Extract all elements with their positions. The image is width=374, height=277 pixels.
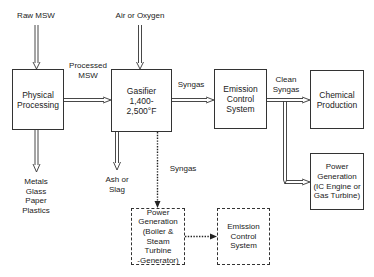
label-processed-msw: Processed MSW bbox=[66, 61, 110, 80]
label-ash-or-slag: Ash or Slag bbox=[100, 175, 134, 194]
connectors bbox=[0, 0, 374, 277]
node-power-generation-steam: Power Generation (Boiler & Steam Turbine… bbox=[131, 208, 185, 265]
node-physical-processing: Physical Processing bbox=[12, 69, 64, 130]
node-chemical-production: Chemical Production bbox=[310, 70, 364, 129]
arrow-dotted-to-emission-2 bbox=[185, 234, 217, 240]
node-power-generation-ic: Power Generation (IC Engine or Gas Turbi… bbox=[310, 153, 364, 210]
arrow-recovered-materials bbox=[33, 130, 40, 172]
node-label: Emission Control System bbox=[223, 84, 257, 114]
arrow-ash-slag bbox=[114, 132, 121, 170]
node-label: Gasifier 1,400- 2,500°F bbox=[127, 86, 157, 116]
arrow-clean-syngas-to-power bbox=[284, 102, 311, 186]
node-label: Emission Control System bbox=[227, 222, 259, 251]
label-clean-syngas: Clean Syngas bbox=[268, 75, 304, 94]
arrow-syngas-to-emission bbox=[172, 97, 214, 103]
node-label: Power Generation (IC Engine or Gas Turbi… bbox=[313, 162, 360, 200]
node-emission-control-system: Emission Control System bbox=[214, 69, 267, 129]
node-gasifier: Gasifier 1,400- 2,500°F bbox=[111, 69, 172, 132]
label-raw-msw: Raw MSW bbox=[14, 11, 58, 21]
msw-gasification-diagram: Physical Processing Gasifier 1,400- 2,50… bbox=[0, 0, 374, 277]
arrow-processed-msw bbox=[64, 97, 111, 103]
node-label: Power Generation (Boiler & Steam Turbine… bbox=[132, 208, 184, 266]
label-syngas-dotted: Syngas bbox=[166, 164, 200, 174]
arrow-air-oxygen bbox=[137, 25, 144, 69]
node-emission-control-system-2: Emission Control System bbox=[217, 208, 270, 265]
arrow-clean-syngas bbox=[267, 97, 310, 103]
arrow-syngas-dotted bbox=[155, 132, 161, 208]
arrow-raw-msw bbox=[33, 25, 40, 69]
label-recovered-materials: Metals Glass Paper Plastics bbox=[14, 177, 58, 215]
node-label: Physical Processing bbox=[17, 90, 59, 110]
label-syngas: Syngas bbox=[174, 80, 208, 90]
node-label: Chemical Production bbox=[317, 90, 358, 110]
label-air-or-oxygen: Air or Oxygen bbox=[108, 11, 172, 21]
